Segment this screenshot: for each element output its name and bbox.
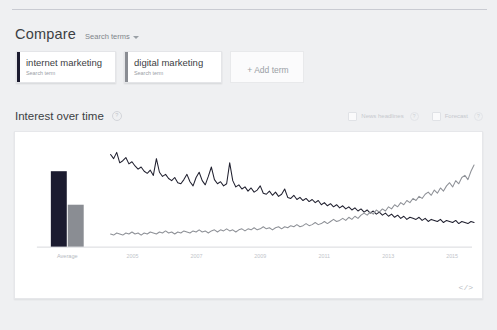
term-subtitle: Search term	[134, 69, 214, 77]
term-subtitle: Search term	[26, 69, 108, 77]
x-tick-label: 2013	[382, 253, 394, 259]
question-mark-icon[interactable]: ?	[474, 112, 483, 121]
embed-code-icon[interactable]: </>	[459, 283, 473, 292]
trends-page: Compare Search terms internet marketing …	[0, 0, 497, 330]
x-tick-label: 2005	[127, 253, 139, 259]
chart-toggles: News headlines ? Forecast ?	[348, 112, 483, 121]
compare-term-row: internet marketing Search term digital m…	[0, 51, 497, 83]
x-tick-label: 2009	[254, 253, 266, 259]
toggle-label: News headlines	[361, 113, 403, 119]
checkbox-icon[interactable]	[432, 112, 441, 121]
question-mark-icon[interactable]: ?	[410, 112, 419, 121]
section-title: Interest over time	[15, 110, 104, 122]
term-accent-bar	[17, 52, 20, 82]
average-bar	[68, 205, 84, 247]
search-terms-dropdown-label: Search terms	[85, 32, 130, 41]
top-divider	[12, 9, 487, 10]
search-terms-dropdown[interactable]: Search terms	[85, 32, 139, 41]
term-name: internet marketing	[26, 57, 108, 68]
add-term-label: + Add term	[247, 65, 288, 75]
x-tick-label: 2015	[446, 253, 458, 259]
term-name: digital marketing	[134, 57, 214, 68]
toggle-label: Forecast	[445, 113, 468, 119]
average-axis-label: Average	[57, 253, 78, 259]
series-line-internet-marketing	[111, 152, 474, 223]
add-term-button[interactable]: + Add term	[230, 51, 304, 83]
toggle-forecast[interactable]: Forecast ?	[432, 112, 483, 121]
series-line-digital-marketing	[111, 165, 474, 235]
compare-header: Compare Search terms	[0, 26, 497, 42]
term-card-digital-marketing[interactable]: digital marketing Search term	[124, 51, 222, 83]
compare-title: Compare	[15, 26, 76, 42]
interest-over-time-header: Interest over time ? News headlines ? Fo…	[0, 110, 497, 122]
checkbox-icon[interactable]	[348, 112, 357, 121]
x-tick-label: 2011	[319, 253, 331, 259]
term-accent-bar	[125, 52, 128, 82]
chevron-down-icon	[133, 36, 139, 39]
term-card-internet-marketing[interactable]: internet marketing Search term	[16, 51, 116, 83]
average-bar	[51, 171, 67, 246]
toggle-news-headlines[interactable]: News headlines ?	[348, 112, 418, 121]
trends-line-chart[interactable]: Average200520072009201120132015	[15, 132, 482, 298]
question-mark-icon[interactable]: ?	[112, 111, 122, 121]
x-tick-label: 2007	[190, 253, 202, 259]
compare-section: Compare Search terms internet marketing …	[0, 26, 497, 83]
interest-over-time-chart-card[interactable]: Average200520072009201120132015 </>	[14, 131, 483, 299]
